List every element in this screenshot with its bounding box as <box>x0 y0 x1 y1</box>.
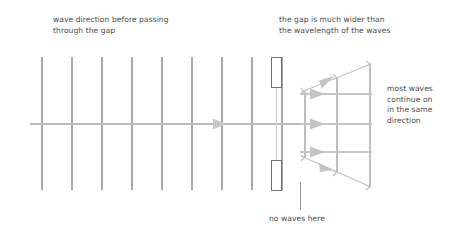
upper-spreading-arrow <box>319 76 334 89</box>
label-gap-width: the gap is much wider than the wavelengt… <box>279 15 390 36</box>
label-wave-direction: wave direction before passing through th… <box>53 15 169 36</box>
diffracted-ray-arrow <box>310 89 325 100</box>
wavefront-hook <box>333 74 337 79</box>
barrier-block-upper <box>272 58 282 88</box>
label-no-waves-here: no waves here <box>269 214 325 225</box>
diffracted-ray-arrow <box>310 119 325 130</box>
wavefront-hook <box>333 171 337 176</box>
diffracted-ray-arrow-group <box>310 89 325 158</box>
diffracted-ray-arrow <box>310 147 325 158</box>
barrier-block-lower <box>272 161 282 191</box>
diagram-canvas: wave direction before passing through th… <box>0 0 454 237</box>
wavefront-hook <box>366 61 370 66</box>
wave-direction-arrow <box>213 119 226 130</box>
lower-spreading-arrow <box>319 163 334 172</box>
label-most-waves-continue: most waves continue on in the same direc… <box>387 84 433 126</box>
